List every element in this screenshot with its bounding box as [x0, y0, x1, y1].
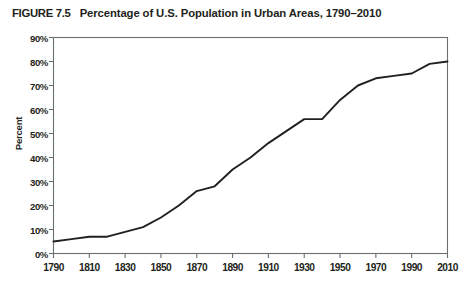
line-chart-svg	[0, 0, 469, 298]
x-axis-ticks	[54, 254, 448, 259]
y-axis-ticks	[49, 38, 54, 254]
chart-plot-area: Percent 90%80%70%60%50%40%30%20%10%0% 17…	[0, 0, 469, 298]
urban-population-line	[54, 62, 448, 242]
plot-frame-border	[54, 38, 448, 254]
axis-frame	[54, 38, 448, 254]
figure-container: FIGURE 7.5 Percentage of U.S. Population…	[0, 0, 469, 298]
